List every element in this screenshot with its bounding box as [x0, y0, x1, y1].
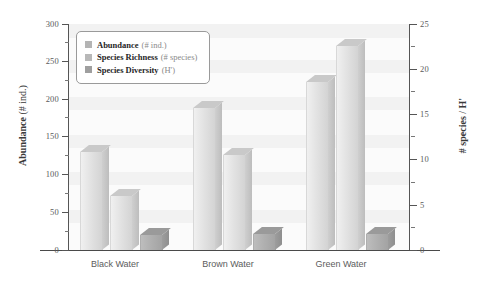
y-axis-right-tick-label: 0 — [420, 245, 424, 255]
y-axis-left-line — [68, 24, 69, 251]
y-axis-left-title-main: Abundance — [17, 117, 28, 166]
y-axis-left-tick-label: 150 — [46, 131, 59, 141]
y-axis-right-tick — [410, 114, 417, 115]
bar-side-face — [245, 150, 252, 250]
y-axis-right-minor-tick — [411, 136, 415, 137]
y-axis-left-tick — [62, 136, 69, 137]
y-axis-right-minor-tick — [411, 182, 415, 183]
y-axis-right-minor-tick — [411, 91, 415, 92]
y-axis-left-tick-label: 200 — [46, 94, 59, 104]
y-axis-left-minor-tick — [65, 231, 69, 232]
y-axis-right-tick — [410, 159, 417, 160]
chart-container: 0 50 100 150 200 250 300 0 5 10 15 20 25… — [0, 0, 480, 281]
y-axis-left-tick — [62, 212, 69, 213]
x-axis-category-label-green-water: Green Water — [286, 259, 396, 269]
y-axis-left-tick-label: 0 — [55, 245, 59, 255]
legend-swatch-icon — [85, 41, 92, 48]
y-axis-right-tick-label: 25 — [420, 19, 429, 29]
legend-item-species-diversity: Species Diversity (H') — [85, 65, 201, 75]
bar-diversity-brown-water — [253, 234, 275, 250]
bar-front-face — [110, 196, 133, 250]
y-axis-right-tick-label: 5 — [420, 200, 424, 210]
bar-richness-brown-water — [223, 155, 245, 250]
y-axis-right-tick — [410, 69, 417, 70]
y-axis-right-minor-tick — [411, 46, 415, 47]
legend-unit: (# ind.) — [142, 40, 167, 50]
bar-front-face — [253, 234, 276, 250]
bar-front-face — [306, 82, 329, 250]
bar-abundance-green-water — [306, 82, 328, 250]
y-axis-left-tick-label: 300 — [46, 19, 59, 29]
legend-swatch-icon — [85, 66, 92, 73]
y-axis-left-minor-tick — [65, 193, 69, 194]
bar-front-face — [80, 152, 103, 250]
y-axis-right-tick — [410, 205, 417, 206]
bar-abundance-black-water — [80, 152, 102, 250]
y-axis-right-title: # species / H' — [457, 56, 468, 196]
x-axis-category-label-brown-water: Brown Water — [173, 259, 283, 269]
y-axis-right-tick-label: 10 — [420, 154, 429, 164]
y-axis-right-tick — [410, 24, 417, 25]
legend-label: Species Richness — [97, 52, 158, 62]
bar-front-face — [193, 108, 216, 250]
legend-item-species-richness: Species Richness (# species) — [85, 52, 201, 62]
legend-item-abundance: Abundance (# ind.) — [85, 40, 201, 50]
y-axis-left-tick — [62, 61, 69, 62]
legend-label: Species Diversity — [97, 65, 159, 75]
bar-richness-black-water — [110, 196, 132, 250]
y-axis-left-tick — [62, 250, 69, 251]
y-axis-right-minor-tick — [411, 227, 415, 228]
bar-diversity-green-water — [366, 234, 388, 250]
bar-side-face — [215, 103, 222, 250]
y-axis-right-tick-label: 20 — [420, 64, 429, 74]
legend-swatch-icon — [85, 54, 92, 61]
chart-legend: Abundance (# ind.) Species Richness (# s… — [76, 31, 210, 84]
y-axis-left-tick-label: 50 — [50, 207, 59, 217]
y-axis-right-tick — [410, 250, 417, 251]
y-axis-left-tick — [62, 24, 69, 25]
legend-unit: (H') — [162, 65, 175, 75]
bar-side-face — [328, 77, 335, 250]
y-axis-left-minor-tick — [65, 117, 69, 118]
y-axis-right-line — [409, 24, 410, 251]
y-axis-left-title: Abundance (# ind.) — [17, 56, 28, 196]
y-axis-left-tick — [62, 174, 69, 175]
y-axis-right-tick-label: 15 — [420, 109, 429, 119]
bar-side-face — [132, 191, 139, 250]
bar-diversity-black-water — [140, 235, 162, 250]
bar-richness-green-water — [336, 46, 358, 250]
x-axis-line — [40, 250, 440, 251]
legend-unit: (# species) — [161, 52, 198, 62]
y-axis-left-minor-tick — [65, 80, 69, 81]
y-axis-left-tick-label: 100 — [46, 169, 59, 179]
x-axis-category-label-black-water: Black Water — [60, 259, 170, 269]
y-axis-left-tick — [62, 99, 69, 100]
bar-side-face — [358, 41, 365, 250]
bar-abundance-brown-water — [193, 108, 215, 250]
legend-label: Abundance — [97, 40, 139, 50]
bar-front-face — [336, 46, 359, 250]
bar-front-face — [366, 234, 389, 250]
y-axis-left-minor-tick — [65, 155, 69, 156]
bar-front-face — [223, 155, 246, 250]
y-axis-left-title-unit: (# ind.) — [17, 85, 28, 114]
bar-front-face — [140, 235, 163, 250]
bar-side-face — [102, 147, 109, 250]
y-axis-left-tick-label: 250 — [46, 56, 59, 66]
y-axis-left-minor-tick — [65, 42, 69, 43]
